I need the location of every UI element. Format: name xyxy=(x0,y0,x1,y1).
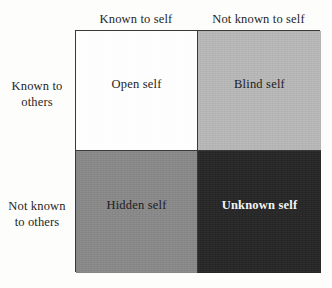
quadrant-open-self: Open self xyxy=(76,31,198,151)
quadrant-open-self-label: Open self xyxy=(111,76,161,92)
quadrant-hidden-self: Hidden self xyxy=(76,151,198,273)
column-header-not-known-to-self: Not known to self xyxy=(197,10,320,28)
row-label-known-to-others: Known to others xyxy=(2,79,72,110)
row-label-not-known-to-others-line2: to others xyxy=(2,215,72,231)
row-label-known-to-others-line2: others xyxy=(2,95,72,111)
johari-window-diagram: Known to self Not known to self Known to… xyxy=(0,0,332,288)
quadrant-blind-self-label: Blind self xyxy=(234,76,285,92)
quadrant-blind-self: Blind self xyxy=(198,31,321,151)
row-label-not-known-to-others: Not known to others xyxy=(2,199,72,230)
row-label-known-to-others-line1: Known to xyxy=(2,79,72,95)
johari-grid: Open self Blind self Hidden self Unknown… xyxy=(75,30,320,272)
row-label-not-known-to-others-line1: Not known xyxy=(2,199,72,215)
column-header-known-to-self: Known to self xyxy=(75,10,197,28)
quadrant-unknown-self-label: Unknown self xyxy=(222,197,298,213)
quadrant-unknown-self: Unknown self xyxy=(198,151,321,273)
quadrant-hidden-self-label: Hidden self xyxy=(106,197,166,213)
